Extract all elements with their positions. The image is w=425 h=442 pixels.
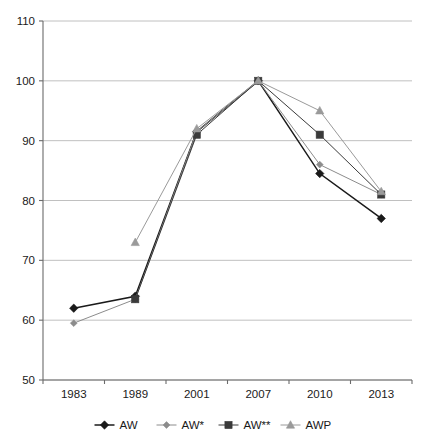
legend-label: AW xyxy=(120,419,138,431)
legend-label: AW** xyxy=(244,419,272,431)
series-AWstar xyxy=(70,77,384,326)
data-point-small-diamond xyxy=(163,422,170,429)
series-line xyxy=(74,81,382,323)
x-tick-label: 2010 xyxy=(307,388,333,400)
series-line xyxy=(74,81,382,308)
legend-item-AWstar[interactable]: AW* xyxy=(157,419,205,431)
y-axis-tick-labels: 1101009080706050 xyxy=(16,15,35,386)
legend-item-AWstarstar[interactable]: AW** xyxy=(219,419,272,431)
x-tick-label: 2007 xyxy=(245,388,271,400)
data-point-small-diamond xyxy=(316,161,323,168)
y-tick-label: 80 xyxy=(22,195,35,207)
legend-item-AWP[interactable]: AWP xyxy=(281,419,332,431)
data-point-small-diamond xyxy=(70,320,77,327)
legend-label: AWP xyxy=(306,419,332,431)
x-axis-tick-labels: 198319892001200720102013 xyxy=(61,388,394,400)
y-tick-label: 110 xyxy=(17,15,35,27)
x-tick-label: 1983 xyxy=(61,388,87,400)
data-point-triangle xyxy=(286,421,294,429)
x-tick-label: 2013 xyxy=(368,388,394,400)
data-point-triangle xyxy=(316,106,324,114)
y-tick-label: 70 xyxy=(22,254,35,266)
axes-group xyxy=(39,21,412,384)
chart-canvas: 1101009080706050 19831989200120072010201… xyxy=(0,0,425,442)
legend-label: AW* xyxy=(182,419,205,431)
series-line xyxy=(135,81,381,243)
legend-item-AW[interactable]: AW xyxy=(95,419,138,431)
data-point-triangle xyxy=(193,124,201,131)
data-series-group xyxy=(70,77,386,327)
series-AWstarstar xyxy=(132,77,385,303)
data-point-square xyxy=(225,421,232,428)
x-tick-label: 2001 xyxy=(184,388,210,400)
line-chart: 1101009080706050 19831989200120072010201… xyxy=(0,0,425,442)
y-tick-label: 90 xyxy=(22,135,35,147)
y-tick-label: 60 xyxy=(22,314,35,326)
y-tick-label: 100 xyxy=(16,75,35,87)
series-AW xyxy=(70,77,386,313)
data-point-square xyxy=(132,296,139,303)
x-tick-label: 1989 xyxy=(122,388,148,400)
series-line xyxy=(135,81,381,299)
y-tick-label: 50 xyxy=(22,374,35,386)
data-point-filled-diamond xyxy=(100,421,108,429)
data-point-filled-diamond xyxy=(70,304,78,312)
chart-legend: AWAW*AW**AWP xyxy=(95,419,332,431)
data-point-triangle xyxy=(131,238,139,246)
data-point-square xyxy=(316,131,323,138)
